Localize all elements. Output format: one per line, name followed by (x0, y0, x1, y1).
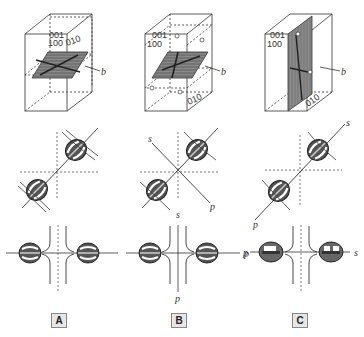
face-label-100: 100 (147, 39, 162, 49)
column-b: b 001 100 010 s s p p p (126, 14, 249, 304)
diagram-canvas: b 001 100 010 (0, 0, 364, 337)
spindle-diagram-a-diagonal (18, 128, 100, 212)
column-c: b 001 100 010 s p (242, 14, 358, 292)
axis-label-b: b (341, 66, 346, 77)
axis-label-s-top: s (148, 133, 152, 144)
spindle-diagram-c-horizontal (250, 225, 350, 292)
axis-label-s-bottom: s (176, 209, 180, 220)
axis-label-b: b (101, 66, 106, 77)
spindle-diagram-a-horizontal (6, 225, 118, 292)
face-label-100: 100 (267, 39, 282, 49)
axis-label-p-bottom: p (174, 293, 180, 304)
axis-label-s-right: s (354, 247, 358, 258)
axis-label-s: s (346, 117, 350, 128)
panel-label-b: B (171, 313, 187, 328)
column-a: b 001 100 010 (6, 14, 118, 292)
face-label-100: 100 (48, 38, 63, 48)
face-label-010: 010 (186, 91, 204, 106)
axis-label-p: p (252, 219, 258, 230)
panel-label-c: C (292, 313, 308, 328)
axis-label-b: b (221, 66, 226, 77)
axis-label-p-left: p (242, 247, 248, 258)
spindle-diagram-b-horizontal (126, 225, 240, 292)
axis-label-p: p (209, 201, 215, 212)
spindle-diagram-b-diagonal (140, 128, 220, 210)
panel-label-a: A (51, 313, 67, 328)
spindle-diagram-c-diagonal (255, 124, 345, 220)
